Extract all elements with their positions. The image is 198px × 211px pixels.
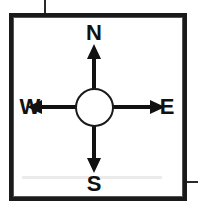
- scan-artifact-vertical-rule: [44, 0, 46, 14]
- arrow-up-icon: [87, 44, 101, 59]
- west-ray: [40, 105, 77, 109]
- compass-rose-figure: N E S W: [0, 0, 198, 211]
- north-ray: [92, 56, 96, 90]
- compass-hub-circle: [75, 88, 114, 127]
- direction-label-west: W: [16, 96, 44, 118]
- compass-assembly: N E S W: [14, 18, 182, 196]
- direction-label-east: E: [153, 96, 181, 118]
- direction-label-south: S: [78, 173, 110, 195]
- direction-label-north: N: [78, 22, 110, 44]
- south-ray: [92, 125, 96, 161]
- east-ray: [112, 105, 152, 109]
